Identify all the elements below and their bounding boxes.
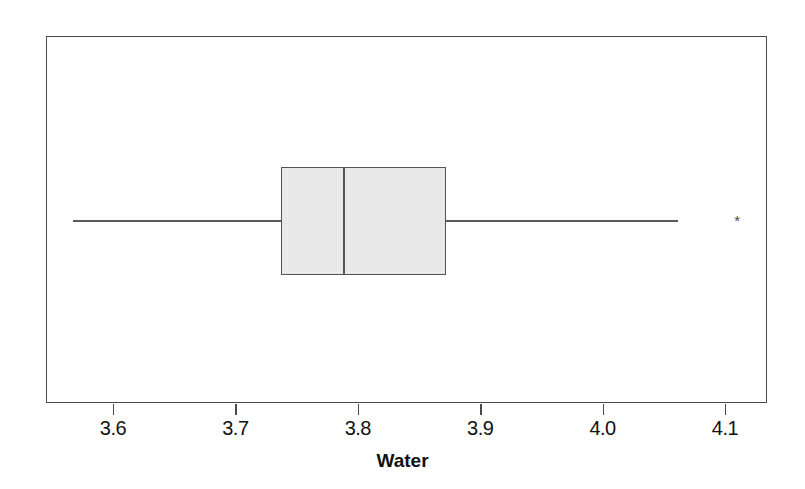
x-axis-tick-mark — [113, 404, 114, 415]
boxplot-figure: * 3.63.73.83.94.04.1 Water — [0, 0, 805, 489]
median-line — [343, 167, 345, 275]
x-axis-tick-mark — [603, 404, 604, 415]
x-axis-title: Water — [0, 450, 805, 472]
box-q1-q3 — [281, 167, 446, 275]
x-axis-tick-mark — [480, 404, 481, 415]
plot-area: * — [46, 36, 767, 403]
outlier-point: * — [731, 214, 744, 227]
x-axis-tick-label: 4.0 — [568, 417, 638, 440]
x-axis-tick-label: 3.6 — [78, 417, 148, 440]
x-axis-tick-label: 3.8 — [323, 417, 393, 440]
x-axis-tick-label: 3.9 — [445, 417, 515, 440]
x-axis-tick-label: 3.7 — [200, 417, 270, 440]
x-axis-tick-label: 4.1 — [690, 417, 760, 440]
whisker-low-line — [73, 220, 281, 222]
x-axis-tick-mark — [358, 404, 359, 415]
x-axis-tick-mark — [725, 404, 726, 415]
x-axis-tick-mark — [235, 404, 236, 415]
whisker-high-line — [446, 220, 679, 222]
